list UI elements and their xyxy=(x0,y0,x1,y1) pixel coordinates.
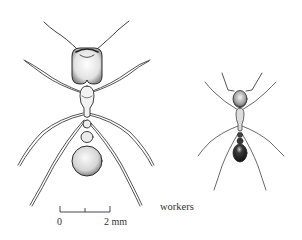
minor-head xyxy=(233,91,247,108)
major-gaster xyxy=(72,146,102,176)
antennae xyxy=(222,73,262,91)
minor-gaster xyxy=(233,144,247,162)
minor-petiole xyxy=(238,133,243,138)
scale-end-label: 2 mm xyxy=(104,217,127,227)
major-head xyxy=(72,48,102,84)
major-postpetiole xyxy=(81,132,93,143)
figure-caption: workers xyxy=(160,202,194,213)
scale-start-label: 0 xyxy=(57,217,62,227)
antennae xyxy=(44,21,129,50)
major-petiole xyxy=(83,120,91,128)
major-mesosoma xyxy=(80,86,94,118)
scale-bar xyxy=(60,206,110,212)
minor-postpetiole xyxy=(237,138,243,144)
minor-mesosoma xyxy=(236,108,244,131)
major-worker xyxy=(18,21,154,206)
ant-illustration xyxy=(0,0,302,240)
minor-worker xyxy=(198,73,284,190)
